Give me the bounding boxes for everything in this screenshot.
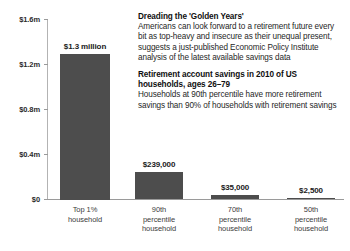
- y-axis-label-400000: $0.4m: [0, 150, 40, 159]
- y-tick-mark-400000: [44, 154, 48, 155]
- bar-value-label-70th-percentile-household: $35,000: [200, 183, 270, 192]
- bar-50th-percentile-household: [287, 198, 335, 199]
- annotation-body-secondary: Households at 90th percentile have more …: [138, 90, 343, 110]
- y-tick-mark-0: [44, 199, 48, 200]
- y-tick-mark-1200000: [44, 64, 48, 65]
- x-axis-label-50th-percentile-household: 50th percentile household: [276, 205, 346, 234]
- x-axis-label-top-1-percent-household: Top 1% household: [50, 205, 120, 224]
- bar-value-label-top-1-percent-household: $1.3 million: [50, 42, 120, 51]
- bar-70th-percentile-household: [211, 195, 259, 199]
- y-tick-mark-800000: [44, 109, 48, 110]
- retirement-savings-chart-figure: $1.6m $1.2m $0.8m $0.4m $0 $1.3 million …: [0, 0, 350, 251]
- annotation-body-primary: Americans can look forward to a retireme…: [138, 22, 343, 63]
- bar-value-label-50th-percentile-household: $2,500: [276, 186, 346, 195]
- annotation-headline-secondary: Retirement account savings in 2010 of US…: [138, 70, 343, 90]
- y-axis-label-1200000: $1.2m: [0, 60, 40, 69]
- bar-top-1-percent-household: [60, 54, 110, 200]
- annotation-headline-primary: Dreading the 'Golden Years': [138, 12, 343, 22]
- bar-value-label-90th-percentile-household: $239,000: [124, 160, 194, 169]
- x-axis-label-70th-percentile-household: 70th percentile household: [200, 205, 270, 234]
- y-axis-label-800000: $0.8m: [0, 105, 40, 114]
- y-axis-label-1600000: $1.6m: [0, 15, 40, 24]
- annotation-block: Dreading the 'Golden Years' Americans ca…: [138, 12, 343, 111]
- y-tick-mark-1600000: [44, 19, 48, 20]
- bar-90th-percentile-household: [135, 172, 183, 199]
- annotation-spacer: [138, 63, 343, 70]
- x-axis-label-90th-percentile-household: 90th percentile household: [124, 205, 194, 234]
- y-axis-label-0: $0: [0, 195, 40, 204]
